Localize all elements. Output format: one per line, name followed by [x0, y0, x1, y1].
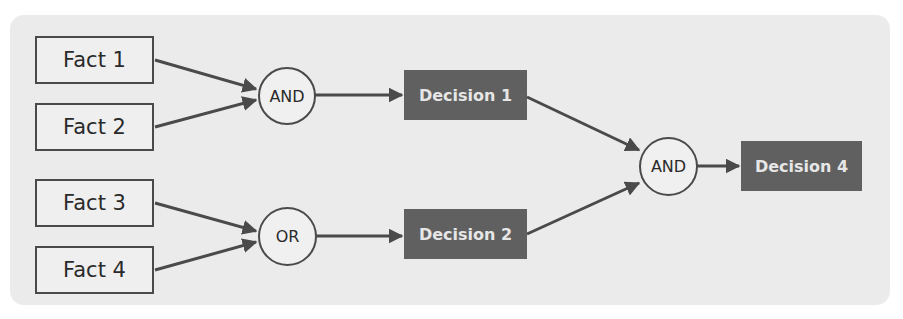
or-gate: OR	[258, 207, 317, 266]
edge-fact2-and1	[155, 100, 256, 127]
or-gate-label: OR	[276, 227, 300, 246]
decision-4-node: Decision 4	[741, 141, 862, 191]
decision-2-label: Decision 2	[419, 225, 512, 244]
fact-1-node: Fact 1	[35, 36, 154, 84]
decision-1-node: Decision 1	[404, 70, 527, 120]
decision-1-label: Decision 1	[419, 86, 512, 105]
edge-decision1-and2	[527, 97, 639, 150]
edge-decision2-and2	[527, 183, 639, 234]
and-gate-2: AND	[639, 137, 698, 196]
and-gate-1-label: AND	[269, 87, 304, 106]
fact-4-node: Fact 4	[35, 246, 154, 294]
and-gate-1: AND	[258, 67, 316, 125]
decision-4-label: Decision 4	[755, 157, 848, 176]
edge-fact3-or	[155, 203, 256, 231]
fact-1-label: Fact 1	[63, 48, 126, 72]
fact-3-label: Fact 3	[63, 191, 126, 215]
and-gate-2-label: AND	[651, 157, 686, 176]
edge-fact4-or	[155, 242, 256, 270]
edge-fact1-and1	[155, 60, 256, 89]
fact-2-label: Fact 2	[63, 115, 126, 139]
fact-2-node: Fact 2	[35, 103, 154, 151]
fact-3-node: Fact 3	[35, 179, 154, 227]
decision-2-node: Decision 2	[404, 209, 527, 259]
fact-4-label: Fact 4	[63, 258, 126, 282]
